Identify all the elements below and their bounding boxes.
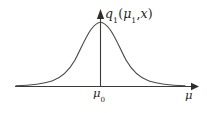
mu0-subscript: 0 (100, 95, 105, 104)
y-label-func: q (105, 6, 113, 21)
y-axis-label: q1(μ1,x) (105, 8, 153, 21)
y-label-arg2: x (140, 6, 147, 21)
mu-symbol: μ (185, 88, 192, 102)
gaussian-curve-figure: q1(μ1,x) μ0 μ (0, 0, 207, 113)
y-label-func-subscript: 1 (113, 16, 118, 25)
x-axis-peak-label: μ0 (93, 88, 105, 100)
y-label-arg1-subscript: 1 (131, 16, 136, 25)
y-axis-arrow-icon (97, 9, 104, 19)
x-axis-label: μ (185, 90, 192, 102)
y-label-close-paren: ) (148, 6, 153, 21)
